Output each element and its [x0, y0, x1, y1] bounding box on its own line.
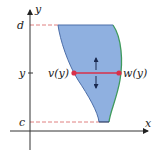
x-axis-label: x	[145, 117, 152, 130]
y-level-label: y	[18, 67, 26, 80]
y-axis-label: y	[34, 3, 42, 16]
c-label: c	[19, 116, 25, 129]
d-label: d	[17, 19, 24, 32]
v-point	[71, 70, 76, 75]
w-point	[116, 70, 121, 75]
v-label: v(y)	[48, 67, 69, 80]
w-label: w(y)	[123, 67, 147, 80]
region-diagram: y x d y c v(y) w(y)	[0, 0, 156, 157]
